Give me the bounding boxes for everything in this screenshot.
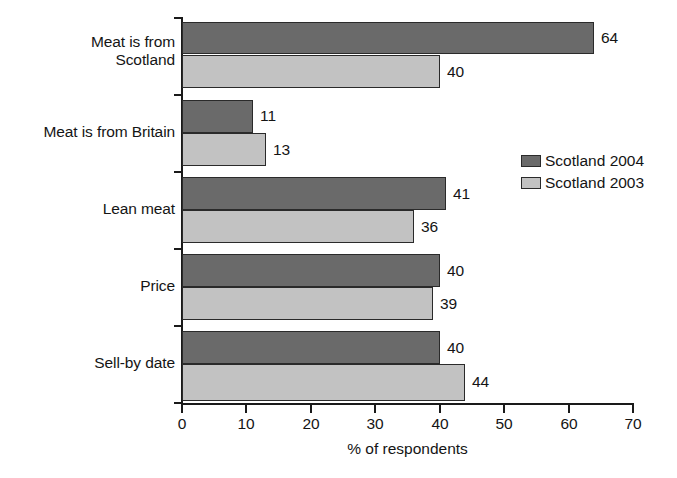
category-label-sell-by-date: Sell-by date [94, 354, 175, 372]
bar-2003-sell-by-date [182, 364, 465, 401]
category-label-meat-is-from-scotland: Meat is from Scotland [91, 33, 175, 69]
y-axis-tick [174, 402, 182, 404]
bar-value-2003-meat-is-from-britain: 13 [273, 142, 290, 158]
x-axis-tick [245, 405, 247, 413]
bar-2003-meat-is-from-britain [182, 133, 266, 166]
x-axis-tick [568, 405, 570, 413]
legend-swatch-icon-2004 [521, 155, 541, 167]
x-tick-label-50: 50 [484, 415, 524, 433]
bar-value-2004-price: 40 [447, 263, 464, 279]
bar-2004-price [182, 254, 440, 287]
bar-2004-meat-is-from-britain [182, 100, 253, 133]
bar-2003-price [182, 287, 433, 320]
bar-2003-meat-is-from-scotland [182, 55, 440, 88]
bar-2004-meat-is-from-scotland [182, 22, 594, 54]
y-axis-tick [174, 325, 182, 327]
bar-value-2004-lean-meat: 41 [453, 186, 470, 202]
x-tick-label-60: 60 [549, 415, 589, 433]
category-label-lean-meat: Lean meat [103, 200, 175, 218]
x-tick-label-10: 10 [226, 415, 266, 433]
bar-value-2004-meat-is-from-britain: 11 [260, 108, 276, 124]
x-tick-label-30: 30 [355, 415, 395, 433]
x-axis-tick [310, 405, 312, 413]
bar-value-2004-sell-by-date: 40 [447, 340, 464, 356]
x-axis-tick [439, 405, 441, 413]
category-label-meat-is-from-britain: Meat is from Britain [43, 123, 175, 141]
x-axis-line [181, 403, 634, 405]
legend-swatch-icon-2003 [521, 177, 541, 189]
y-axis-tick [174, 171, 182, 173]
legend-label-scotland-2004: Scotland 2004 [545, 152, 644, 170]
bar-value-2003-meat-is-from-scotland: 40 [447, 64, 464, 80]
y-axis-tick [174, 17, 182, 19]
bar-2003-lean-meat [182, 210, 414, 243]
bar-value-2004-meat-is-from-scotland: 64 [601, 30, 618, 46]
bar-value-2003-lean-meat: 36 [421, 219, 438, 235]
x-tick-label-70: 70 [613, 415, 653, 433]
x-axis-tick [632, 405, 634, 413]
bar-value-2003-sell-by-date: 44 [472, 374, 489, 390]
legend-item-scotland-2003: Scotland 2003 [521, 172, 644, 194]
x-axis-title: % of respondents [182, 440, 633, 458]
x-tick-label-0: 0 [162, 415, 202, 433]
legend-item-scotland-2004: Scotland 2004 [521, 150, 644, 172]
x-axis-tick [374, 405, 376, 413]
bar-chart: Meat is from Scotland Meat is from Brita… [0, 0, 677, 478]
x-tick-label-40: 40 [420, 415, 460, 433]
x-tick-label-20: 20 [291, 415, 331, 433]
bar-value-2003-price: 39 [440, 296, 457, 312]
legend-label-scotland-2003: Scotland 2003 [545, 174, 644, 192]
y-axis-tick [174, 248, 182, 250]
x-axis-tick [181, 405, 183, 413]
y-axis-tick [174, 94, 182, 96]
bar-2004-sell-by-date [182, 331, 440, 364]
bar-2004-lean-meat [182, 177, 446, 210]
category-label-price: Price [140, 277, 175, 295]
x-axis-tick [503, 405, 505, 413]
legend: Scotland 2004 Scotland 2003 [521, 150, 644, 194]
